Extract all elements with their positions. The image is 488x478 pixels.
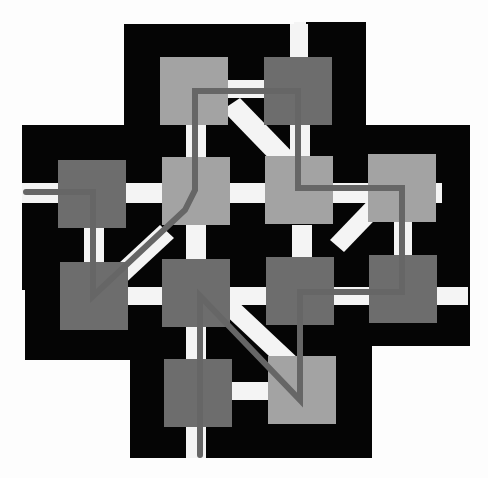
abstract-grid-artwork <box>0 0 488 478</box>
